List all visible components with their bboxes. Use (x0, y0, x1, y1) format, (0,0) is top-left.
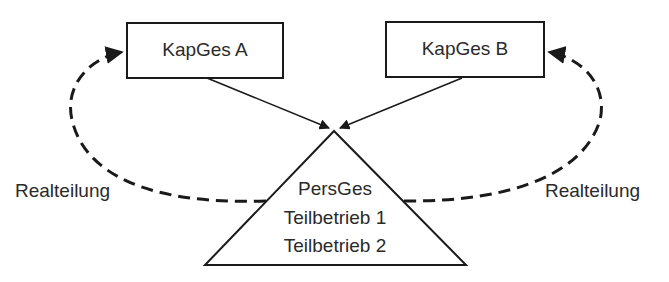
realteilung-right-label: Realteilung (545, 180, 640, 202)
kapges-a-label: KapGes A (127, 39, 283, 61)
kapges-b-label: KapGes B (386, 38, 544, 60)
teilbetrieb-2-label: Teilbetrieb 2 (235, 235, 435, 257)
realteilung-left-label: Realteilung (15, 180, 110, 202)
teilbetrieb-1-label: Teilbetrieb 1 (235, 207, 435, 229)
persges-label: PersGes (235, 178, 435, 200)
arrow-a-to-persges (207, 78, 329, 128)
arrow-b-to-persges (340, 78, 462, 128)
